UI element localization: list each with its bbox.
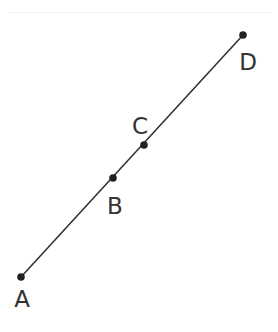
point-a <box>17 273 25 281</box>
geometry-diagram: A B C D <box>0 0 278 332</box>
point-b <box>109 174 117 182</box>
point-d <box>239 31 247 39</box>
label-c: C <box>132 113 148 139</box>
label-b: B <box>107 193 123 219</box>
segment-ad <box>21 35 243 277</box>
label-a: A <box>14 286 30 312</box>
point-c <box>140 141 148 149</box>
label-d: D <box>239 49 257 75</box>
